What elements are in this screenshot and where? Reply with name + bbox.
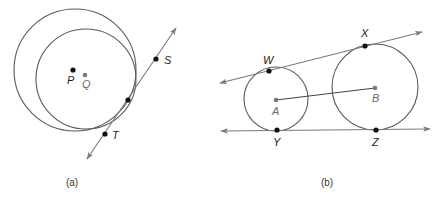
point-x xyxy=(362,43,367,48)
label-q: Q xyxy=(82,78,91,90)
label-w: W xyxy=(263,54,275,66)
point-a xyxy=(274,98,279,103)
caption-b: (b) xyxy=(321,177,333,188)
point-t xyxy=(102,131,107,136)
point-s xyxy=(153,56,158,61)
point-z xyxy=(373,127,378,132)
point-q xyxy=(83,73,88,78)
label-p: P xyxy=(67,74,75,86)
segment-AB xyxy=(276,88,375,100)
geometry-figure: PQST(a) WXYZAB(b) xyxy=(0,0,434,198)
figure-canvas: PQST(a) WXYZAB(b) xyxy=(0,0,434,198)
label-x: X xyxy=(360,27,369,39)
point-tangency xyxy=(125,97,130,102)
label-z: Z xyxy=(371,136,380,148)
panel-a: PQST(a) xyxy=(14,9,176,188)
label-b: B xyxy=(372,92,379,104)
point-b xyxy=(373,86,378,91)
label-s: S xyxy=(164,54,172,66)
label-t: T xyxy=(112,129,120,141)
label-a: A xyxy=(271,105,279,117)
tangent-line-WX xyxy=(220,32,422,83)
label-y: Y xyxy=(273,136,281,148)
point-w xyxy=(266,68,271,73)
tangent-line-YZ xyxy=(221,129,430,131)
point-y xyxy=(274,127,279,132)
panel-b: WXYZAB(b) xyxy=(220,27,430,188)
caption-a: (a) xyxy=(66,177,78,188)
point-p xyxy=(70,67,75,72)
